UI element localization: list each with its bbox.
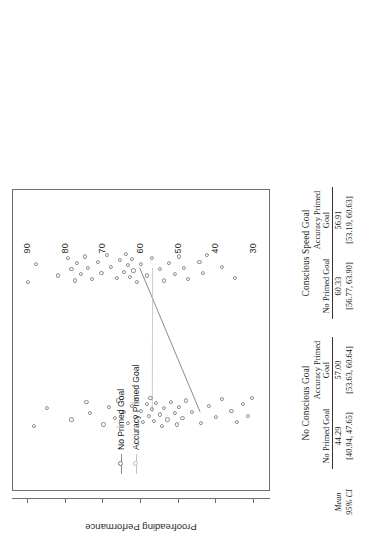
group-header-conscious-speed-goal: Conscious Speed Goal (300, 187, 312, 319)
y-tick (140, 498, 141, 503)
y-tick-label: 60 (135, 243, 145, 253)
cell-ci-2: [56.77, 63.90] (344, 253, 355, 319)
y-tick-label: 70 (97, 243, 107, 253)
y-tick (27, 498, 28, 503)
table-row-ci: 95% CI [40.94, 47.65] [53.63, 60.64] [56… (344, 187, 355, 535)
legend-label-1: Accuracy Primed Goal (130, 365, 142, 451)
row-label-mean: Mean (333, 469, 345, 535)
y-tick (65, 498, 66, 503)
plot-panel: No Primed Goal Accuracy Primed Goal (12, 189, 270, 491)
legend-item-accuracy-primed-goal: Accuracy Primed Goal (130, 365, 142, 475)
y-tick (253, 498, 254, 503)
cell-mean-0: 44.29 (333, 403, 345, 469)
y-axis-line (12, 498, 270, 499)
cell-mean-2: 60.33 (333, 253, 345, 319)
table-row-mean: Mean 44.29 57.00 60.33 56.91 (333, 187, 345, 535)
col-header-3: Accuracy Primed Goal (312, 187, 333, 253)
cell-ci-3: [53.19, 60.63] (344, 187, 355, 253)
cell-mean-1: 57.00 (333, 337, 345, 403)
y-tick-label: 80 (60, 243, 70, 253)
table-column-header-row: No Primed Goal Accuracy Primed Goal No P… (312, 187, 333, 535)
cell-mean-3: 56.91 (333, 187, 345, 253)
y-tick (102, 498, 103, 503)
cell-ci-1: [53.63, 60.64] (344, 337, 355, 403)
y-tick-label: 90 (22, 243, 32, 253)
table-group-header-row: No Conscious Goal Conscious Speed Goal (300, 187, 312, 535)
y-tick (215, 498, 216, 503)
col-header-2: No Primed Goal (312, 253, 333, 319)
series-line (140, 268, 200, 412)
legend-marker-circle-icon (117, 454, 125, 474)
plot-area: Proofreading Performance No Primed Goal (6, 187, 296, 535)
cell-ci-0: [40.94, 47.65] (344, 403, 355, 469)
legend: No Primed Goal Accuracy Primed Goal (115, 365, 145, 475)
col-header-1: Accuracy Primed Goal (312, 337, 333, 403)
row-label-ci: 95% CI (344, 469, 355, 535)
y-tick (178, 498, 179, 503)
y-axis-title: Proofreading Performance (85, 522, 196, 533)
group-header-no-conscious-goal: No Conscious Goal (300, 337, 312, 469)
col-header-0: No Primed Goal (312, 403, 333, 469)
legend-marker-triangle-icon (132, 454, 140, 474)
figure-frame: Proofreading Performance No Primed Goal (0, 0, 375, 545)
y-tick-label: 40 (210, 243, 220, 253)
legend-label-0: No Primed Goal (115, 389, 127, 450)
y-axis-title-box: Proofreading Performance (12, 524, 270, 525)
y-tick-label: 50 (173, 243, 183, 253)
summary-statistics-table: No Conscious Goal Conscious Speed Goal N… (300, 187, 355, 535)
rotated-figure-canvas: Proofreading Performance No Primed Goal (0, 0, 375, 545)
y-tick-label: 30 (248, 243, 258, 253)
legend-item-no-primed-goal: No Primed Goal (115, 365, 127, 475)
